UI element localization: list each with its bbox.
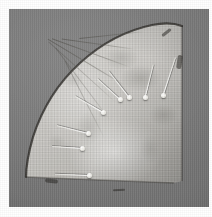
mounting-board	[9, 9, 209, 207]
photograph-frame	[0, 0, 212, 217]
board-vignette	[9, 9, 209, 207]
